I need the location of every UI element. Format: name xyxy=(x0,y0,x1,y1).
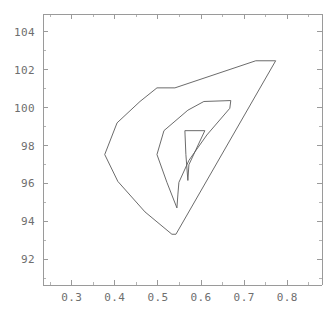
plot-canvas: 92949698100102104 0.30.40.50.60.70.8 xyxy=(0,0,336,312)
x-tick-label: 0.6 xyxy=(191,291,212,304)
y-tick-label: 96 xyxy=(21,177,35,190)
y-tick-label: 100 xyxy=(14,102,35,115)
y-tick-label: 102 xyxy=(14,64,35,77)
x-tick-label: 0.8 xyxy=(277,291,298,304)
figure-background xyxy=(0,0,336,312)
x-tick-label: 0.4 xyxy=(104,291,125,304)
y-tick-label: 92 xyxy=(21,253,35,266)
x-tick-label: 0.7 xyxy=(234,291,255,304)
y-tick-label: 104 xyxy=(14,26,35,39)
x-tick-label: 0.5 xyxy=(147,291,168,304)
y-tick-label: 98 xyxy=(21,140,35,153)
y-tick-label: 94 xyxy=(21,215,35,228)
contour-plot-figure: 92949698100102104 0.30.40.50.60.70.8 xyxy=(0,0,336,312)
x-tick-label: 0.3 xyxy=(61,291,82,304)
